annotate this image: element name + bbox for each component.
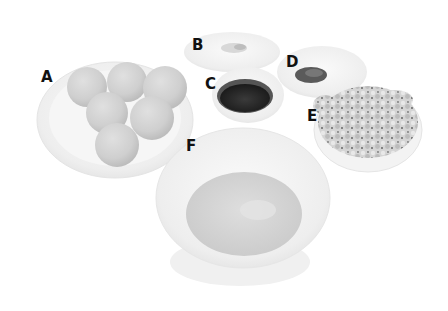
label-a: A	[41, 70, 53, 85]
label-e: E	[307, 109, 317, 124]
bowl-f	[156, 128, 330, 286]
bowl-c	[212, 67, 284, 123]
bowl-e	[313, 86, 422, 172]
label-f: F	[186, 139, 196, 154]
label-c: C	[205, 77, 216, 92]
label-b: B	[192, 38, 203, 53]
photo-illustration	[0, 0, 448, 311]
label-d: D	[286, 55, 298, 70]
ingredients-photo: A B C D E F	[0, 0, 448, 311]
